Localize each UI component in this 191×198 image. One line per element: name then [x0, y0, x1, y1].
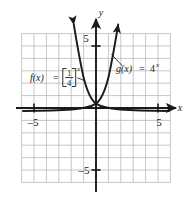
f-label-equals: = [53, 72, 59, 83]
g-label-base: 4 [150, 63, 155, 74]
coordinate-plane-svg: x y –5 5 5 –5 f(x) = 1 4 x g(x) = 4 x [0, 0, 191, 198]
g-label-name: g(x) [116, 63, 133, 75]
f-function-label: f(x) = 1 4 x [30, 65, 81, 88]
y-tick-label-neg5: –5 [78, 164, 91, 176]
f-label-name: f(x) [30, 72, 45, 84]
x-tick-label-neg5: –5 [27, 116, 40, 128]
g-label-exponent: x [155, 61, 160, 69]
y-tick-label-pos5: 5 [83, 32, 89, 44]
x-axis-label: x [177, 102, 183, 113]
g-function-label: g(x) = 4 x [116, 61, 160, 75]
y-axis-label: y [98, 7, 104, 18]
curve-g [23, 25, 118, 112]
axis-lines [16, 19, 176, 192]
graph-figure: x y –5 5 5 –5 f(x) = 1 4 x g(x) = 4 x [0, 0, 191, 198]
x-tick-label-pos5: 5 [156, 116, 162, 128]
g-label-equals: = [139, 63, 145, 74]
f-label-denominator: 4 [67, 78, 72, 88]
